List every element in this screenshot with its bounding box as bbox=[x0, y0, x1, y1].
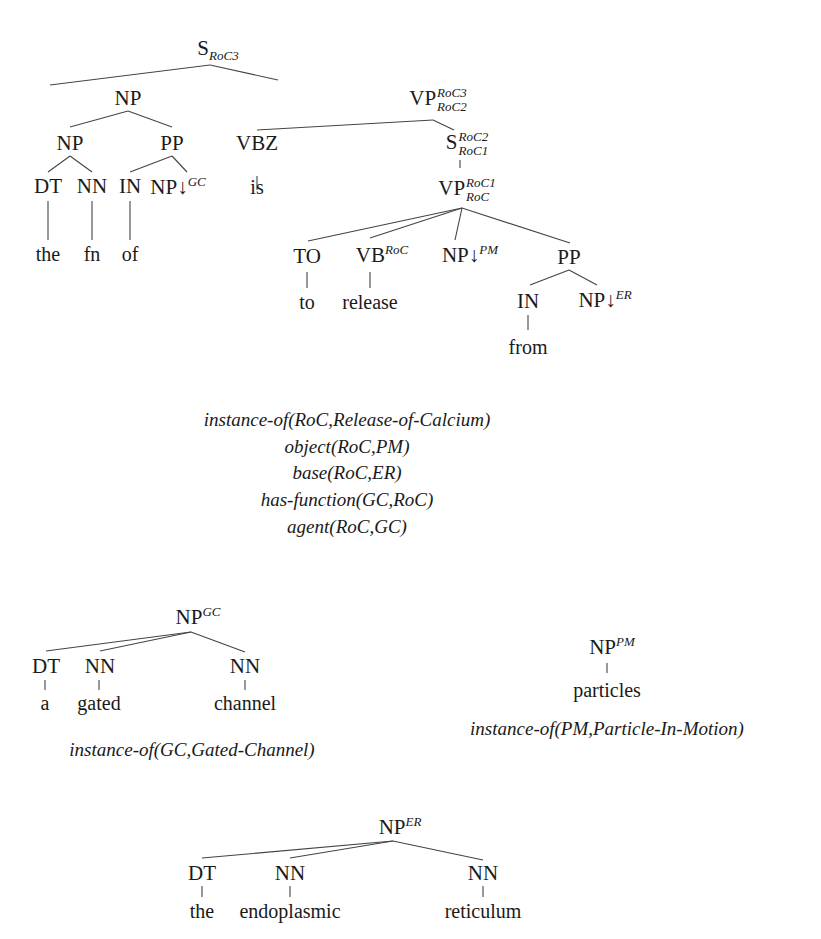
node-er-nn2: NN bbox=[468, 863, 498, 884]
node-gc-nn2: NN bbox=[230, 656, 260, 677]
word-endoplasmic: endoplasmic bbox=[239, 900, 340, 923]
node-er-dt: DT bbox=[188, 863, 216, 884]
node-np-inner: NP bbox=[57, 133, 84, 154]
node-in-of: IN bbox=[119, 176, 141, 197]
word-to: to bbox=[299, 291, 315, 314]
node-np-subject: NP bbox=[115, 88, 142, 109]
predicate-line: has-function(GC,RoC) bbox=[261, 489, 434, 511]
node-s-roc3: SRoC3 bbox=[197, 38, 238, 62]
pm-predicate: instance-of(PM,Particle-In-Motion) bbox=[470, 718, 744, 740]
word-of: of bbox=[122, 243, 139, 266]
word-release: release bbox=[342, 291, 398, 314]
predicate-line: base(RoC,ER) bbox=[292, 462, 401, 484]
word-the-er: the bbox=[190, 900, 214, 923]
word-fn: fn bbox=[84, 243, 101, 266]
predicate-line: agent(RoC,GC) bbox=[287, 516, 407, 538]
node-np-gc-substitution: NP↓GC bbox=[150, 175, 205, 198]
node-in-from: IN bbox=[517, 291, 539, 312]
node-gc-dt: DT bbox=[32, 656, 60, 677]
word-the: the bbox=[36, 243, 60, 266]
predicate-line: instance-of(RoC,Release-of-Calcium) bbox=[204, 409, 491, 431]
word-reticulum: reticulum bbox=[445, 900, 522, 923]
tree-edges bbox=[0, 0, 821, 939]
word-is: is bbox=[250, 176, 263, 199]
predicate-line: object(RoC,PM) bbox=[284, 436, 409, 458]
node-vb-roc: VBRoC bbox=[356, 243, 408, 266]
node-np-er: NPER bbox=[379, 815, 422, 838]
word-from: from bbox=[509, 336, 548, 359]
word-particles: particles bbox=[573, 679, 641, 702]
node-np-pm-substitution: NP↓PM bbox=[442, 243, 498, 266]
node-nn: NN bbox=[77, 176, 107, 197]
node-vp-roc3-roc2: VPRoC3RoC2 bbox=[409, 86, 466, 113]
node-np-gc: NPGC bbox=[176, 605, 221, 628]
node-pp-from: PP bbox=[557, 247, 580, 268]
gc-predicate: instance-of(GC,Gated-Channel) bbox=[69, 739, 314, 761]
node-vbz: VBZ bbox=[236, 133, 278, 154]
word-a: a bbox=[41, 692, 50, 715]
node-s-roc2-roc1: SRoC2RoC1 bbox=[446, 130, 488, 157]
node-pp-of: PP bbox=[160, 133, 183, 154]
node-np-pm: NPPM bbox=[589, 635, 635, 658]
node-vp-roc1-roc: VPRoC1RoC bbox=[438, 176, 495, 203]
node-er-nn: NN bbox=[275, 863, 305, 884]
node-np-er-substitution: NP↓ER bbox=[578, 288, 631, 311]
node-to: TO bbox=[293, 246, 321, 267]
word-gated: gated bbox=[77, 692, 120, 715]
node-gc-nn: NN bbox=[85, 656, 115, 677]
node-dt: DT bbox=[34, 176, 62, 197]
word-channel: channel bbox=[214, 692, 276, 715]
